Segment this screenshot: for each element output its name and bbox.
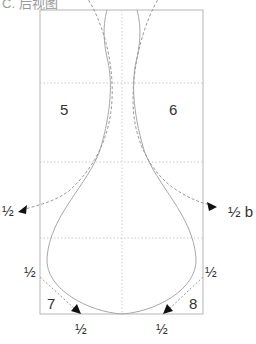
annotation-right-arrow: ½ b [228, 204, 253, 219]
region-label-6: 6 [169, 102, 177, 117]
annotation-bottom-right-side: ½ [205, 265, 217, 279]
arrow-head-left [18, 205, 27, 214]
arrow-head-right [207, 202, 217, 211]
arrow-head-bottom-right [163, 304, 173, 314]
dashed-diagonal-left [40, 277, 76, 310]
region-label-8: 8 [189, 296, 197, 311]
annotation-bottom-left-side: ½ [24, 265, 36, 279]
dashed-diagonal-right [168, 277, 203, 310]
arrow-head-bottom-left [71, 304, 81, 314]
annotation-left-arrow: ½ [2, 204, 14, 218]
region-label-7: 7 [47, 296, 55, 311]
annotation-bottom-right-base: ½ [156, 322, 168, 336]
annotation-bottom-left-base: ½ [75, 322, 87, 336]
region-label-5: 5 [60, 102, 68, 117]
back-view-diagram [0, 0, 256, 344]
